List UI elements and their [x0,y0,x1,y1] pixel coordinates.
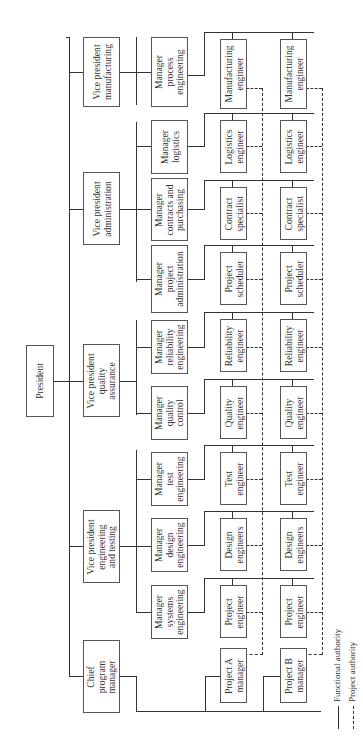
pm-a-drop [205,676,206,712]
manager-label: Manager quality control [154,396,186,430]
eng-drop [232,32,233,39]
manager-process-box: Manager process engineering [151,37,188,107]
eng-drop [292,180,293,187]
engineer-bus [204,312,314,313]
branch-line [136,37,137,105]
vp-quality-box: Vice president quality assurance [83,344,120,417]
legend-project-label: Project authority [347,642,357,702]
engineer-a-box: Manufacturing engineer [220,39,247,109]
manager-out [188,146,205,147]
president-box: President [26,345,54,417]
eng-a-stub [246,146,262,147]
manager-logistics-box: Manager logistics [151,120,188,174]
engineer-b-box: Project scheduler [280,252,307,305]
engineer-label: Design engineers [223,526,244,563]
manager-label: Manager contracts and purchasing [154,184,186,235]
engineer-b-box: Project engineer [280,585,307,638]
eng-drop [232,578,233,585]
vp-connector [69,546,83,547]
engineer-a-box: Contract specialist [220,187,247,240]
eng-drop [292,445,293,452]
eng-b-stub [306,413,322,414]
project-bus [136,711,321,712]
manager-out [188,413,205,414]
engineer-label: Project engineer [223,595,244,628]
project-a-manager-box: Project A manager [220,648,247,703]
eng-b-stub [306,88,322,89]
eng-drop [292,113,293,120]
engineer-bus [204,379,314,380]
engineer-bus [204,113,314,114]
manager-design-box: Manager design engineering [151,518,188,572]
engineer-a-box: Reliability engineer [220,319,247,372]
engineer-bus [204,245,314,246]
manager-label: Manager systems engineering [154,589,186,634]
branch-connector [120,546,136,547]
engineer-label: Contract specialist [283,196,304,232]
eng-a-stub [246,279,262,280]
engineer-a-box: Project engineer [220,585,247,638]
eng-drop [292,511,293,518]
engineer-label: Contract specialist [223,196,244,232]
engineer-a-box: Test engineer [220,452,247,505]
engineer-b-box: Reliability engineer [280,319,307,372]
engineer-b-box: Contract specialist [280,187,307,240]
engineer-label: Logistics engineer [283,129,304,164]
engineer-label: Logistics engineer [223,129,244,164]
branch-connector [120,381,136,382]
engineer-label: Manufacturing engineer [283,45,304,102]
eng-a-stub [246,545,262,546]
engineer-b-box: Quality engineer [280,386,307,439]
manager-out-v [204,445,205,480]
manager-out [188,75,205,76]
engineer-bus [204,445,314,446]
vp-connector [69,381,83,382]
manager-out-v [204,245,205,280]
legend-functional-label: Functional authority [332,629,342,702]
manager-connector [136,413,151,414]
vp-manufacturing-label: Vice president manufacturing [91,44,112,100]
project-a-manager-label: Project A manager [223,658,244,694]
manager-connector [136,279,151,280]
manager-connector [136,146,151,147]
vp-engineering-box: Vice president engineering and testing [83,510,120,583]
engineer-bus [204,32,314,33]
manager-test-box: Manager test engineering [151,452,188,506]
manager-out-v [204,511,205,546]
pm-b-connector [263,676,280,677]
engineer-label: Reliability engineer [223,325,244,366]
manager-connector [136,546,151,547]
manager-out [188,347,205,348]
manager-out-v [204,312,205,348]
vp-connector [69,676,83,677]
manager-quality-control-box: Manager quality control [151,386,188,440]
engineer-bus [204,180,314,181]
vp-quality-label: Vice president quality assurance [86,353,118,408]
president-connector [53,381,69,382]
legend-solid-swatch [338,706,339,729]
chief-program-manager-box: Chief program manager [83,640,120,713]
spine-tick [66,37,70,38]
manager-out-v [204,32,205,76]
eng-drop [232,312,233,319]
vp-administration-box: Vice president administration [83,172,120,245]
eng-drop [232,245,233,252]
eng-drop [232,113,233,120]
manager-contracts-box: Manager contracts and purchasing [151,178,188,241]
vp-administration-label: Vice president administration [91,181,112,236]
eng-drop [292,245,293,252]
engineer-a-box: Logistics engineer [220,120,247,173]
branch-line [136,450,137,613]
manager-systems-box: Manager systems engineering [151,585,188,639]
branch-connector [120,209,136,210]
engineer-label: Design engineers [283,526,304,563]
engineer-bus [204,511,314,512]
manager-out [188,209,205,210]
eng-drop [232,180,233,187]
eng-a-stub [246,479,262,480]
manager-label: Manager logistics [159,130,180,164]
engineer-label: Project scheduler [283,260,304,297]
vp-manufacturing-box: Vice president manufacturing [83,37,120,107]
eng-b-stub [306,612,322,613]
manager-label: Manager design engineering [154,522,186,567]
